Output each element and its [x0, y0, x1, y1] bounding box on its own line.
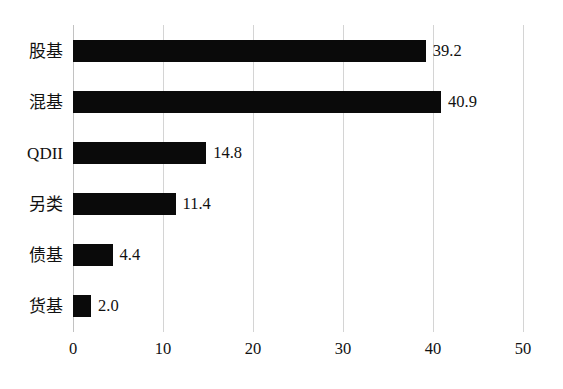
bar-value-label: 2.0: [91, 298, 119, 315]
category-axis: 股基 混基 QDII 另类 债基 货基: [0, 25, 63, 332]
x-tick-label: 20: [245, 341, 262, 358]
category-slot: 股基: [0, 25, 63, 76]
bar: [73, 40, 426, 62]
category-slot: 货基: [0, 281, 63, 332]
x-tick-label: 50: [515, 341, 532, 358]
bar-row: 4.4: [73, 230, 523, 281]
category-slot: 债基: [0, 230, 63, 281]
bar: [73, 142, 206, 164]
bar-row: 39.2: [73, 25, 523, 76]
category-label: 混基: [29, 93, 63, 110]
bar: [73, 244, 113, 266]
bar-value-label: 40.9: [441, 93, 477, 110]
x-tick-label: 40: [425, 341, 442, 358]
bar-value-label: 39.2: [426, 42, 462, 59]
bar-row: 11.4: [73, 179, 523, 230]
bar-value-label: 14.8: [206, 145, 242, 162]
plot-area: 39.2 40.9 14.8 11.4 4.4 2.0: [73, 25, 523, 332]
bar-chart: 股基 混基 QDII 另类 债基 货基 39.2 40.9: [0, 0, 563, 389]
bar-row: 2.0: [73, 281, 523, 332]
category-label: 另类: [29, 196, 63, 213]
x-tick-label: 30: [335, 341, 352, 358]
bar-row: 40.9: [73, 76, 523, 127]
category-label: QDII: [27, 144, 63, 161]
category-slot: QDII: [0, 127, 63, 178]
bar: [73, 295, 91, 317]
category-label: 债基: [29, 247, 63, 264]
bar: [73, 91, 441, 113]
bar: [73, 193, 176, 215]
gridline-50: [523, 25, 524, 332]
category-slot: 混基: [0, 76, 63, 127]
category-slot: 另类: [0, 179, 63, 230]
bar-value-label: 4.4: [113, 247, 141, 264]
x-tick-label: 10: [155, 341, 172, 358]
category-label: 股基: [29, 42, 63, 59]
category-label: 货基: [29, 298, 63, 315]
bar-row: 14.8: [73, 127, 523, 178]
bar-value-label: 11.4: [176, 196, 211, 213]
x-tick-label: 0: [69, 341, 77, 358]
